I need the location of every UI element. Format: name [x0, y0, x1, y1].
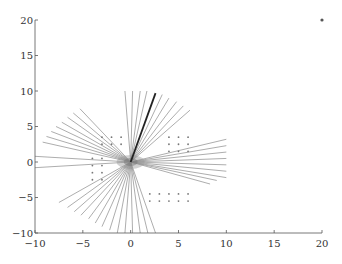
- y-tick-label: 20: [20, 15, 33, 26]
- x-tick-label: 10: [220, 238, 233, 249]
- x-tick-label: 5: [175, 238, 181, 249]
- ray-line: [68, 117, 131, 162]
- data-marker: [120, 143, 122, 145]
- ray-line: [68, 162, 131, 207]
- ray-lines: [35, 91, 226, 233]
- data-marker: [92, 165, 94, 167]
- data-marker: [111, 143, 113, 145]
- data-marker: [101, 165, 103, 167]
- ray-line: [131, 106, 184, 162]
- data-marker: [92, 172, 94, 174]
- ray-line: [81, 162, 131, 215]
- ray-line: [131, 162, 148, 233]
- y-tick-label: 10: [20, 86, 33, 97]
- data-marker: [92, 158, 94, 160]
- ray-line: [89, 162, 131, 219]
- data-marker: [187, 200, 189, 202]
- ray-line: [131, 162, 217, 180]
- data-marker: [111, 136, 113, 138]
- data-marker: [158, 193, 160, 195]
- y-tick-label: 0: [27, 157, 33, 168]
- y-tick-label: −10: [12, 228, 33, 239]
- data-marker: [101, 143, 103, 145]
- ray-line: [56, 127, 131, 163]
- data-marker: [168, 150, 170, 152]
- data-marker: [120, 136, 122, 138]
- data-marker: [168, 193, 170, 195]
- data-marker: [168, 136, 170, 138]
- data-marker: [168, 143, 170, 145]
- ray-line: [131, 162, 156, 233]
- data-marker: [187, 193, 189, 195]
- ray-line: [35, 156, 131, 162]
- data-marker: [158, 200, 160, 202]
- y-tick-label: 15: [20, 50, 33, 61]
- outlier-point: [320, 18, 323, 21]
- ray-line: [35, 162, 131, 168]
- x-tick-label: −5: [75, 238, 90, 249]
- plot-area: −10−505101520 −10−505101520: [0, 0, 342, 264]
- y-ticks: −10−505101520: [12, 15, 38, 239]
- x-tick-label: 20: [316, 238, 329, 249]
- data-marker: [178, 193, 180, 195]
- highlight-ray: [131, 93, 156, 162]
- data-marker: [101, 158, 103, 160]
- data-marker: [101, 172, 103, 174]
- data-marker: [101, 179, 103, 181]
- ray-line: [125, 91, 131, 162]
- data-marker: [92, 179, 94, 181]
- data-marker: [168, 200, 170, 202]
- x-tick-label: 0: [127, 238, 133, 249]
- y-tick-label: 5: [27, 121, 33, 132]
- data-marker: [101, 136, 103, 138]
- data-marker: [178, 150, 180, 152]
- x-tick-label: −10: [24, 238, 45, 249]
- data-marker: [149, 193, 151, 195]
- axes: −10−505101520 −10−505101520: [12, 15, 328, 250]
- data-marker: [178, 143, 180, 145]
- ray-line: [117, 162, 130, 233]
- y-tick-label: −5: [18, 192, 33, 203]
- data-marker: [178, 200, 180, 202]
- outlier-marker: [320, 18, 323, 21]
- data-marker: [187, 136, 189, 138]
- highlight-ray-line: [131, 93, 156, 162]
- data-marker: [187, 150, 189, 152]
- ray-line: [95, 162, 130, 223]
- data-marker: [178, 136, 180, 138]
- ray-line: [62, 122, 131, 162]
- ray-line: [74, 162, 130, 212]
- data-marker: [149, 200, 151, 202]
- x-tick-label: 15: [268, 238, 281, 249]
- data-marker: [187, 143, 189, 145]
